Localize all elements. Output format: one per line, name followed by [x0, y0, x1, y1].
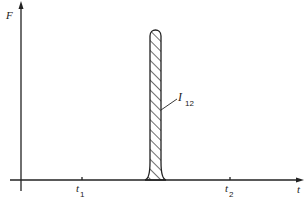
- impulse-label-main: I: [177, 90, 183, 104]
- x-axis-arrow-icon: [296, 178, 304, 183]
- impulse-force-diagram: F t t 1 t 2 I 12: [0, 0, 305, 209]
- impulse-pulse: [145, 30, 166, 180]
- y-axis-label: F: [5, 9, 13, 21]
- impulse-label-subscript: 12: [185, 99, 194, 108]
- impulse-label: I 12: [161, 90, 194, 110]
- tick-t1-subscript: 1: [80, 190, 85, 199]
- x-axis-label: t: [297, 183, 301, 195]
- leader-line: [161, 99, 177, 110]
- y-axis-arrow-icon: [19, 1, 24, 9]
- y-axis: F: [5, 1, 24, 191]
- tick-t2-subscript: 2: [229, 190, 234, 199]
